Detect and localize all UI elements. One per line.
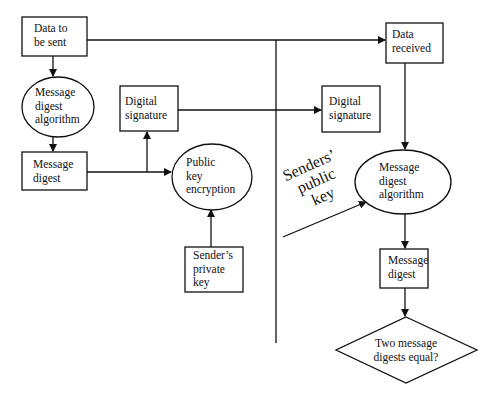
label-message-digest-receiver: Message digest bbox=[388, 254, 428, 281]
label-digital-signature-sender: Digital signature bbox=[125, 95, 167, 122]
label-digital-signature-receiver: Digital signature bbox=[329, 95, 371, 122]
label-md-algorithm-receiver: Message digest algorithm bbox=[379, 161, 424, 202]
label-message-digest-sender: Message digest bbox=[33, 158, 73, 185]
label-md-algorithm-sender: Message digest algorithm bbox=[35, 86, 80, 127]
label-public-key-encryption: Public key encryption bbox=[186, 156, 235, 197]
label-private-key: Sender’s private key bbox=[193, 249, 233, 290]
label-decision: Two message digests equal? bbox=[358, 337, 454, 364]
label-data-to-send: Data to be sent bbox=[34, 22, 68, 49]
edge-public-key-to-md-algo bbox=[283, 202, 366, 237]
label-data-received: Data received bbox=[392, 28, 431, 55]
